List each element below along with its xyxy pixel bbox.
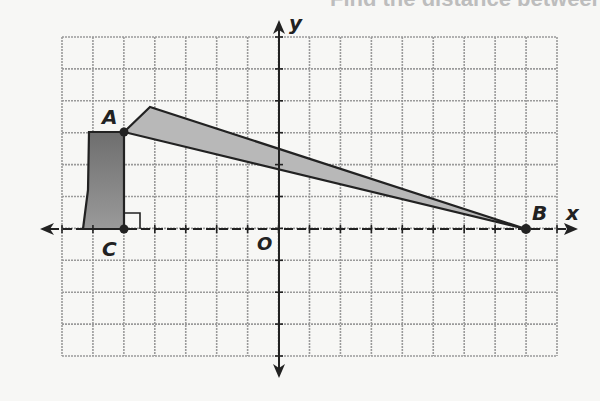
label-b: B — [532, 201, 547, 225]
grid — [62, 37, 557, 356]
label-a: A — [100, 105, 117, 129]
point-c — [120, 225, 129, 234]
label-y-axis: y — [289, 11, 303, 35]
point-b — [521, 224, 531, 234]
coordinate-diagram: A B C O x y — [0, 0, 600, 401]
label-c: C — [102, 237, 117, 261]
label-x-axis: x — [565, 201, 580, 225]
point-a — [120, 128, 129, 137]
label-origin: O — [257, 233, 272, 254]
ramp-shape — [124, 107, 526, 229]
header-fragment: Find the distance between the given poin… — [330, 0, 600, 12]
tower-shape — [83, 132, 124, 229]
diagram-stage: Find the distance between the given poin… — [0, 0, 600, 401]
